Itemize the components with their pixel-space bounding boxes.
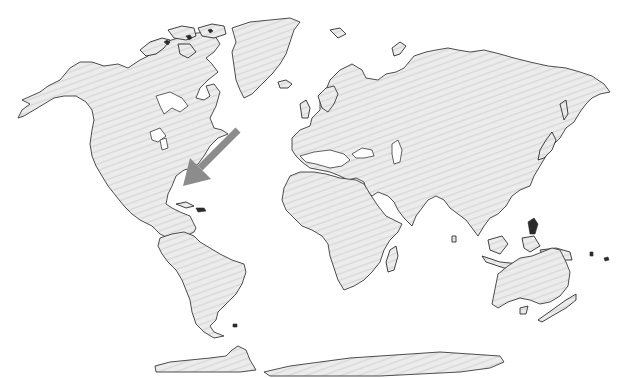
- novaya-zemlya: [392, 42, 406, 56]
- north-america: [18, 32, 228, 238]
- australia: [492, 248, 570, 308]
- falklands: [233, 324, 237, 327]
- iceland: [278, 80, 292, 88]
- caribbean-islands: [176, 202, 206, 212]
- tasmania: [520, 306, 528, 314]
- great-britain: [300, 100, 310, 118]
- world-map: [0, 0, 631, 378]
- south-america: [158, 232, 246, 338]
- svalbard: [330, 28, 346, 38]
- map-canvas: [0, 0, 631, 378]
- antarctica: [155, 346, 504, 376]
- madagascar: [386, 246, 398, 272]
- sri-lanka: [452, 236, 456, 242]
